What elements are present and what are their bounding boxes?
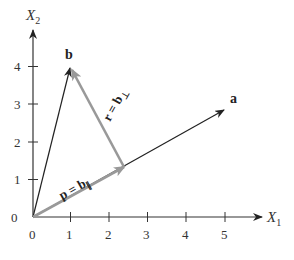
vector-p-projection: p = b∥ bbox=[33, 167, 124, 217]
vector-r-perpendicular: r = b⊥ bbox=[72, 70, 131, 167]
x-tick-label-2: 2 bbox=[105, 227, 112, 242]
vector-p-label: p = b∥ bbox=[56, 173, 94, 205]
y-tick-label-2: 2 bbox=[14, 135, 21, 150]
x-tick-label-0: 0 bbox=[29, 227, 36, 242]
x-tick-label-5: 5 bbox=[221, 227, 228, 242]
y-tick-label-1: 1 bbox=[14, 172, 21, 187]
x-axis-label: X1 bbox=[266, 209, 281, 228]
x-tick-label-3: 3 bbox=[143, 227, 150, 242]
x-tick-label-1: 1 bbox=[66, 227, 73, 242]
vector-a-label: a bbox=[230, 91, 237, 106]
y-axis-label: X2 bbox=[25, 7, 40, 26]
vector-r-label: r = b⊥ bbox=[100, 86, 132, 125]
y-tick-label-3: 3 bbox=[14, 97, 21, 112]
y-tick-label-0: 0 bbox=[11, 210, 18, 225]
vector-b-label: b bbox=[65, 47, 73, 62]
y-tick-label-4: 4 bbox=[14, 59, 21, 74]
vector-projection-diagram: 0 1 2 3 4 5 0 1 2 3 4 X1 X2 a b p = b∥ r… bbox=[0, 0, 294, 260]
x-tick-label-4: 4 bbox=[182, 227, 189, 242]
